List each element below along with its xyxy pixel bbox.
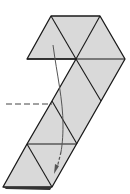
diagram-canvas — [0, 0, 130, 194]
paper-shape — [3, 16, 125, 187]
bottom-edge-layer — [3, 187, 52, 190]
fold-diagram — [0, 0, 130, 194]
